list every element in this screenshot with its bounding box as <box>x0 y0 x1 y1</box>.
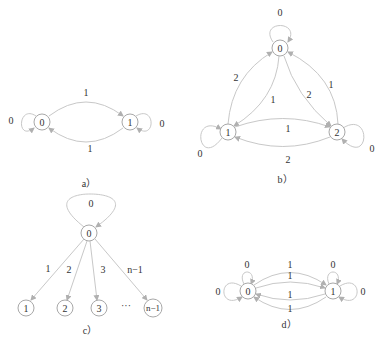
loop-d-0-left <box>224 283 242 300</box>
diagram-b: 0 1 2 0 2 1 2 1 1 2 0 0 b） <box>198 7 375 185</box>
edge-b-2-1 <box>235 137 330 147</box>
loop-label-d-0-left: 0 <box>216 286 221 297</box>
node-c-3-label: 3 <box>97 303 102 314</box>
diagram-a: 0 1 1 1 0 0 a） <box>9 87 165 189</box>
loop-d-0-top <box>242 272 252 284</box>
edge-c-0-1 <box>31 239 84 300</box>
edge-label-d-0-1-a: 1 <box>288 259 293 270</box>
edge-label-c-0-3: 3 <box>101 264 106 275</box>
diagram-c: 0 1 2 3 n−1 ··· 0 1 2 3 n−1 c） <box>18 194 162 336</box>
edge-label-a-1-0: 1 <box>88 143 93 154</box>
edge-label-d-1-0-b: 1 <box>288 303 293 314</box>
loop-d-1-right <box>339 283 357 300</box>
loop-label-b-2: 0 <box>370 143 375 154</box>
caption-c: c） <box>83 325 97 336</box>
edge-b-0-1 <box>234 56 279 126</box>
node-c-0-label: 0 <box>87 228 92 239</box>
loop-b-2 <box>342 124 364 147</box>
caption-a: a） <box>82 178 96 189</box>
edge-label-b-2-1: 2 <box>286 154 291 165</box>
node-a-1-label: 1 <box>128 117 133 128</box>
loop-b-1 <box>201 126 222 148</box>
loop-label-d-1-right: 0 <box>361 286 366 297</box>
loop-label-d-0-top: 0 <box>245 259 250 270</box>
state-diagrams-figure: 0 1 1 1 0 0 a） 0 1 2 0 2 1 2 1 1 2 0 0 b… <box>0 0 378 351</box>
edge-label-d-0-1-b: 1 <box>288 270 293 281</box>
edge-label-b-1-0: 2 <box>234 72 239 83</box>
loop-label-a-1: 0 <box>160 118 165 129</box>
node-c-2-label: 2 <box>63 303 68 314</box>
edge-b-1-0 <box>228 52 272 124</box>
edge-label-c-0-1: 1 <box>46 263 51 274</box>
node-c-n-1-label: n−1 <box>146 303 160 313</box>
node-b-1-label: 1 <box>226 127 231 138</box>
node-b-0-label: 0 <box>278 43 283 54</box>
edge-label-c-0-n-1: n−1 <box>127 264 143 275</box>
edge-label-b-0-2: 2 <box>307 89 312 100</box>
loop-label-a-0: 0 <box>9 115 14 126</box>
caption-d: d） <box>282 319 297 330</box>
loop-label-d-1-top: 0 <box>331 259 336 270</box>
edge-label-d-1-0-a: 1 <box>288 289 293 300</box>
node-d-1-label: 1 <box>331 286 336 297</box>
node-a-0-label: 0 <box>40 117 45 128</box>
loop-label-c-0: 0 <box>89 198 94 209</box>
node-d-0-label: 0 <box>246 286 251 297</box>
caption-b: b） <box>278 174 293 185</box>
edge-label-a-0-1: 1 <box>84 87 89 98</box>
diagram-d: 0 1 1 1 1 1 0 0 0 0 d） <box>216 259 366 330</box>
edge-a-1-0 <box>49 128 123 142</box>
node-c-1-label: 1 <box>24 303 29 314</box>
loop-d-1-top <box>328 272 339 284</box>
ellipsis: ··· <box>121 300 131 311</box>
edge-a-0-1 <box>49 102 123 116</box>
edge-b-1-2 <box>235 119 330 128</box>
loop-label-b-0: 0 <box>278 7 283 18</box>
loop-label-b-1: 0 <box>198 148 203 159</box>
edge-c-0-3 <box>90 241 97 300</box>
edge-label-b-1-2: 1 <box>286 123 291 134</box>
node-b-2-label: 2 <box>335 127 340 138</box>
edge-label-c-0-2: 2 <box>67 264 72 275</box>
edge-label-b-0-1: 1 <box>271 94 276 105</box>
edge-label-b-2-0: 1 <box>329 79 334 90</box>
edge-d-0-1-b <box>256 282 325 288</box>
